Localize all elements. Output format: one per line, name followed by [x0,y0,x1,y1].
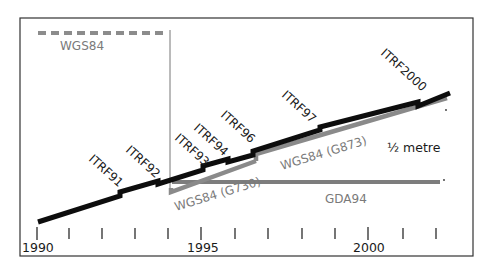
gda94-end-dot [443,179,445,181]
half-metre-label: ½ metre [387,140,441,155]
itrf97-label: ITRF97 [279,88,319,126]
itrf96-label: ITRF96 [218,108,258,146]
itrf92-label: ITRF92 [123,143,163,181]
gda94-label: GDA94 [325,192,367,206]
itrf2000-label: ITRF2000 [378,46,429,94]
tick-label-1990: 1990 [22,240,54,255]
reference-frames-diagram: WGS84 GDA94 ITRF91 ITRF92 ITRF93 ITRF94 … [0,0,494,271]
itrf91-label: ITRF91 [86,152,126,190]
wgs84-label: WGS84 [60,39,104,53]
tick-label-1995: 1995 [187,240,219,255]
g873-end-dot [445,109,447,111]
x-axis-ticks [37,227,436,240]
tick-label-2000: 2000 [353,240,385,255]
